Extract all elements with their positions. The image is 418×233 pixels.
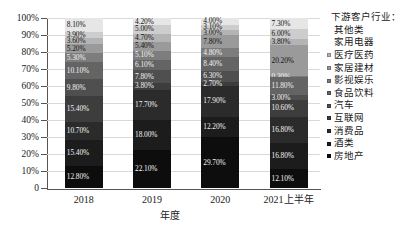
bar-segment-label: 16.80% xyxy=(272,126,294,134)
legend-swatch-icon xyxy=(327,104,331,108)
bar-segment[interactable]: 10.10% xyxy=(65,62,103,79)
bar-segment[interactable]: 12.80% xyxy=(65,166,103,188)
bar-segment[interactable]: 17.90% xyxy=(201,86,239,116)
bar-segment-label: 8.40% xyxy=(203,60,222,68)
bar-segment-label: 15.40% xyxy=(67,149,89,157)
legend-item-label: 医疗医药 xyxy=(334,50,374,61)
legend-swatch-icon xyxy=(327,53,331,57)
bar-column[interactable]: 8.10%3.90%3.60%5.20%5.30%10.10%9.80%15.4… xyxy=(65,18,103,188)
bar-segment[interactable]: 7.30% xyxy=(270,18,308,29)
bar-segment-label: 5.20% xyxy=(67,45,86,53)
bar-segment[interactable]: 17.70% xyxy=(133,90,171,120)
bar-segment-label: 15.40% xyxy=(67,105,89,113)
bar-segment-label: 7.80% xyxy=(135,73,154,81)
bar-segment-label: 7.80% xyxy=(203,38,222,46)
bar-segment[interactable]: 12.20% xyxy=(201,117,239,138)
bar-segment-label: 16.80% xyxy=(272,152,294,160)
bar-column[interactable]: 7.30%6.00%3.80%20.20%0.30%11.80%3.00%10.… xyxy=(270,18,308,188)
bar-segment-label: 9.80% xyxy=(67,84,86,92)
legend-item-label: 互联网 xyxy=(334,113,364,124)
bar-segment[interactable]: 12.10% xyxy=(270,169,308,188)
legend-swatch-icon xyxy=(327,66,331,70)
legend-item[interactable]: 房地产 xyxy=(327,150,418,163)
bar-segment-label: 5.30% xyxy=(67,54,86,62)
bar-segment[interactable]: 6.10% xyxy=(133,60,171,70)
bar-segment-label: 11.80% xyxy=(272,82,294,90)
x-axis-title: 年度 xyxy=(0,210,340,222)
plot-area: 8.10%3.90%3.60%5.20%5.30%10.10%9.80%15.4… xyxy=(47,18,320,188)
bar-segment[interactable]: 15.40% xyxy=(65,140,103,166)
bar-segment[interactable]: 22.10% xyxy=(133,150,171,188)
legend-item-label: 汽车 xyxy=(334,100,354,111)
bar-segment[interactable]: 7.80% xyxy=(201,35,239,48)
y-axis-tick-label: 80% xyxy=(22,47,39,57)
bar-column[interactable]: 4.20%5.00%4.70%5.40%5.10%6.10%7.80%3.80%… xyxy=(133,18,171,188)
legend-item-label: 影视娱乐 xyxy=(334,75,374,86)
bar-segment-label: 5.10% xyxy=(135,51,154,59)
bar-segment[interactable]: 10.70% xyxy=(65,122,103,140)
legend-item-label: 食品饮料 xyxy=(334,88,374,99)
legend-item-label: 消费品 xyxy=(334,126,364,137)
legend-item-label: 其他类 xyxy=(334,25,364,36)
bar-segment-label: 17.70% xyxy=(135,101,157,109)
y-axis-tick-label: 40% xyxy=(22,115,39,125)
bar-segment[interactable]: 5.30% xyxy=(65,53,103,62)
chart-legend: 下游客户行业： 其他类家用电器医疗医药家居建材影视娱乐食品饮料汽车互联网消费品酒… xyxy=(327,12,418,163)
y-axis-tick-label: 30% xyxy=(22,132,39,142)
legend-item[interactable]: 家用电器 xyxy=(327,37,418,50)
bar-segment[interactable]: 15.40% xyxy=(65,96,103,122)
y-axis-tick-label: 0 xyxy=(34,183,39,193)
legend-item-list: 其他类家用电器医疗医药家居建材影视娱乐食品饮料汽车互联网消费品酒类房地产 xyxy=(327,24,418,163)
legend-swatch-icon xyxy=(327,91,331,95)
legend-item[interactable]: 医疗医药 xyxy=(327,49,418,62)
bar-segment-label: 10.60% xyxy=(272,104,294,112)
legend-item-label: 家居建材 xyxy=(334,63,374,74)
bar-segment-label: 5.40% xyxy=(135,42,154,50)
legend-swatch-icon xyxy=(327,129,331,133)
bar-segment-label: 20.20% xyxy=(272,57,294,65)
bar-segment-label: 7.30% xyxy=(272,20,291,28)
bar-segment-label: 18.00% xyxy=(135,131,157,139)
y-axis-tick-mark xyxy=(41,188,47,189)
legend-item[interactable]: 食品饮料 xyxy=(327,87,418,100)
legend-item-label: 家用电器 xyxy=(334,37,374,48)
bar-segment-label: 12.10% xyxy=(272,175,294,183)
y-axis-tick-label: 50% xyxy=(22,98,39,108)
bar-segment[interactable]: 4.80% xyxy=(201,48,239,56)
bar-segment-label: 10.70% xyxy=(67,127,89,135)
bar-segment[interactable]: 29.70% xyxy=(201,137,239,188)
legend-swatch-icon xyxy=(327,79,331,83)
bar-segment-label: 12.20% xyxy=(203,123,225,131)
legend-item-label: 酒类 xyxy=(334,138,354,149)
legend-item[interactable]: 汽车 xyxy=(327,100,418,113)
y-axis-tick-label: 60% xyxy=(22,81,39,91)
legend-swatch-icon xyxy=(327,142,331,146)
bar-segment[interactable]: 18.00% xyxy=(133,120,171,151)
y-axis-tick-label: 90% xyxy=(22,30,39,40)
bar-segment[interactable]: 10.60% xyxy=(270,100,308,117)
legend-title: 下游客户行业： xyxy=(331,12,418,23)
y-axis-tick-label: 20% xyxy=(22,149,39,159)
bar-segment-label: 6.10% xyxy=(135,61,154,69)
bar-segment[interactable]: 16.80% xyxy=(270,143,308,169)
bar-segment-label: 12.80% xyxy=(67,173,89,181)
y-axis-tick-label: 100% xyxy=(17,13,39,23)
legend-swatch-icon xyxy=(327,154,331,158)
legend-item[interactable]: 消费品 xyxy=(327,125,418,138)
legend-item[interactable]: 酒类 xyxy=(327,137,418,150)
stacked-bar-chart: 010%20%30%40%50%60%70%80%90%100% 8.10%3.… xyxy=(0,0,418,233)
legend-item[interactable]: 家居建材 xyxy=(327,62,418,75)
y-axis-tick-label: 70% xyxy=(22,64,39,74)
x-axis-tick-label: 2021上半年 xyxy=(249,194,329,206)
bar-column[interactable]: 4.00%3.10%3.00%7.80%4.80%8.40%6.30%2.70%… xyxy=(201,18,239,188)
bar-segment[interactable]: 5.10% xyxy=(133,51,171,60)
bar-segment[interactable]: 9.80% xyxy=(65,79,103,96)
legend-item[interactable]: 互联网 xyxy=(327,112,418,125)
legend-swatch-icon xyxy=(327,116,331,120)
x-axis-line xyxy=(47,189,321,190)
legend-item[interactable]: 其他类 xyxy=(327,24,418,37)
legend-item[interactable]: 影视娱乐 xyxy=(327,74,418,87)
bar-segment[interactable]: 16.80% xyxy=(270,117,308,143)
bar-segment-label: 29.70% xyxy=(203,159,225,167)
bar-segment[interactable]: 8.40% xyxy=(201,57,239,71)
